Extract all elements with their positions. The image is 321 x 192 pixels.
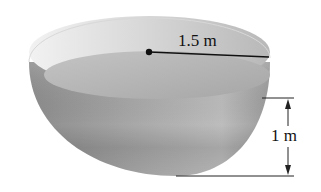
water-depth-label: 1 m [271, 127, 297, 144]
water-surface [44, 51, 270, 99]
arrowhead-down-icon [285, 165, 291, 175]
arrowhead-up-icon [285, 99, 291, 109]
hemisphere-bowl-diagram [0, 0, 321, 192]
radius-label: 1.5 m [178, 32, 217, 49]
